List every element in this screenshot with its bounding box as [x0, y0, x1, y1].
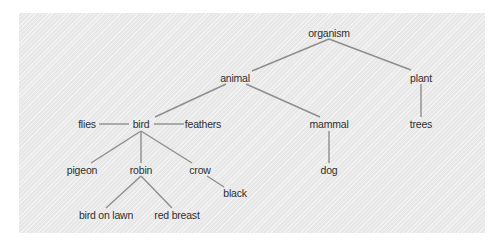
edge-organism-plant — [329, 39, 411, 70]
edge-bird-crow — [141, 131, 192, 163]
node-feathers: feathers — [185, 118, 221, 130]
node-robin: robin — [130, 164, 152, 176]
node-dog: dog — [321, 164, 338, 176]
node-red-breast: red breast — [154, 209, 199, 221]
node-flies: flies — [78, 118, 96, 130]
edge-crow-black — [207, 176, 224, 187]
node-bird: bird — [133, 118, 150, 130]
node-bird-on-lawn: bird on lawn — [79, 209, 133, 221]
node-pigeon: pigeon — [67, 164, 97, 176]
edge-organism-animal — [252, 39, 329, 71]
edge-animal-mammal — [246, 84, 320, 117]
node-plant: plant — [410, 72, 432, 84]
edge-bird-pigeon — [91, 131, 141, 163]
node-mammal: mammal — [309, 118, 348, 130]
node-organism: organism — [308, 27, 350, 39]
node-crow: crow — [189, 164, 210, 176]
node-animal: animal — [220, 72, 250, 84]
node-trees: trees — [410, 118, 432, 130]
edge-robin-bird-on-lawn — [106, 176, 141, 208]
edge-robin-red-breast — [141, 176, 172, 208]
edge-animal-bird — [155, 84, 226, 117]
node-black: black — [223, 187, 247, 199]
